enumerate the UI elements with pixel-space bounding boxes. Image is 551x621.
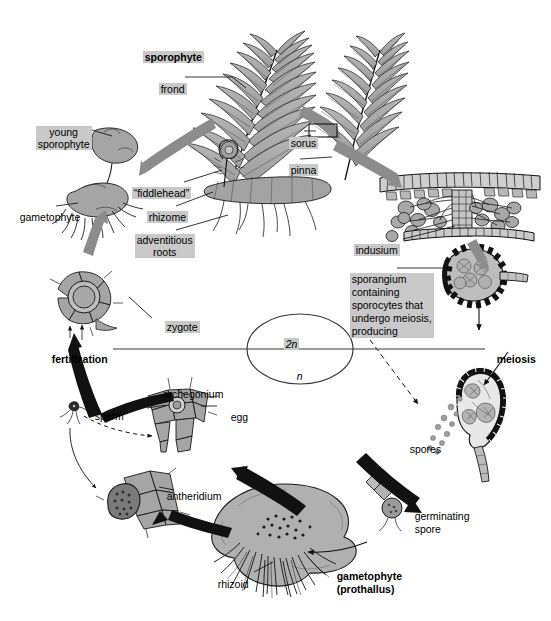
label-pinna: pinna <box>277 152 318 188</box>
label-germinating-spore: germinating spore <box>403 498 470 548</box>
label-adventitious-roots: adventitious roots <box>123 222 195 270</box>
zygote-structure <box>50 271 123 340</box>
label-diploid-marker: 2n <box>272 326 299 362</box>
label-sperm: sperm <box>83 398 124 434</box>
label-sporangium-description: sporangium containing sporocytes that un… <box>338 261 434 350</box>
label-haploid-marker: n <box>285 358 303 394</box>
label-rhizoid: rhizoid <box>206 566 249 602</box>
label-spores: spores <box>398 431 441 467</box>
label-meiosis: meiosis <box>485 341 536 377</box>
label-antheridium: antheridium <box>155 478 222 514</box>
label-sporophyte: sporophyte <box>131 39 204 75</box>
label-egg: egg <box>219 399 248 435</box>
label-gametophyte-prothallus: gametophyte (prothallus) <box>325 558 402 608</box>
arrow-antheridium-to-sperm <box>70 428 96 488</box>
label-archegonium: archegonium <box>151 376 223 412</box>
label-young-sporophyte: young sporophyte <box>24 114 92 162</box>
label-gametophyte: gametophyte <box>8 199 80 235</box>
label-frond: frond <box>147 71 187 107</box>
sporangium-closed <box>443 243 528 309</box>
label-zygote: zygote <box>153 309 200 345</box>
sorus-cross-section <box>380 172 540 242</box>
fern-life-cycle-diagram: sporophyte frond young sporophyte gameto… <box>0 0 551 621</box>
label-fertilization: fertilization <box>40 341 108 377</box>
